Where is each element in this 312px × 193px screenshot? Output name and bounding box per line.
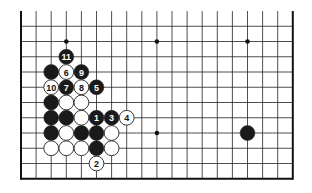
star-point-icon	[245, 39, 250, 44]
star-point-icon	[155, 131, 160, 136]
white-stone	[104, 126, 119, 141]
move-number: 10	[46, 83, 56, 93]
white-stone	[59, 95, 74, 110]
white-stone	[104, 141, 119, 156]
move-number: 5	[94, 83, 99, 93]
move-number: 1	[94, 113, 99, 123]
black-stone: 3	[104, 110, 119, 125]
move-number: 8	[79, 83, 84, 93]
white-stone	[44, 141, 59, 156]
white-stone: 2	[89, 156, 104, 171]
white-stone	[74, 141, 89, 156]
white-stone: 4	[119, 110, 134, 125]
black-stone: 5	[89, 80, 104, 95]
white-stone	[74, 95, 89, 110]
star-point-icon	[155, 39, 160, 44]
black-stone	[89, 126, 104, 141]
move-number: 6	[64, 68, 69, 78]
white-stone: 10	[44, 80, 59, 95]
white-stone: 6	[59, 65, 74, 80]
star-point-icon	[64, 39, 69, 44]
black-stone	[44, 110, 59, 125]
black-stone	[89, 141, 104, 156]
black-stone	[44, 95, 59, 110]
white-stone	[59, 141, 74, 156]
black-stone: 7	[59, 80, 74, 95]
black-stone	[44, 126, 59, 141]
white-stone: 8	[74, 80, 89, 95]
black-stone: 11	[59, 49, 74, 64]
white-stone	[59, 126, 74, 141]
black-stone: 1	[89, 110, 104, 125]
move-number: 2	[94, 159, 99, 169]
go-board: 1169107851342	[0, 0, 312, 193]
move-number: 11	[62, 52, 72, 62]
black-stone: 9	[74, 65, 89, 80]
move-number: 3	[109, 113, 114, 123]
stones: 1169107851342	[44, 49, 255, 171]
black-stone	[44, 65, 59, 80]
move-number: 9	[79, 68, 84, 78]
move-number: 7	[64, 83, 69, 93]
move-number: 4	[124, 113, 129, 123]
black-stone	[74, 126, 89, 141]
white-stone	[74, 110, 89, 125]
black-stone	[240, 126, 255, 141]
black-stone	[59, 110, 74, 125]
